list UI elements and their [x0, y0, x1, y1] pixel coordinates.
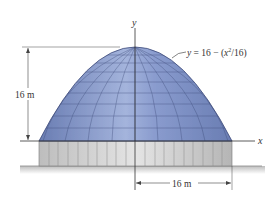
height-dimension-label: 16 m [15, 90, 35, 100]
equation-label: y = 16 − (x2/16) [186, 47, 247, 59]
y-axis-label: y [131, 17, 137, 28]
ground-shadow [20, 166, 265, 174]
dome-base [39, 141, 232, 166]
equation-leader [172, 52, 186, 58]
width-dimension-label: 16 m [172, 179, 192, 189]
dome-diagram: y x y = 16 − (x2/16) 16 m 16 m [0, 0, 280, 208]
x-axis-label: x [257, 135, 263, 146]
